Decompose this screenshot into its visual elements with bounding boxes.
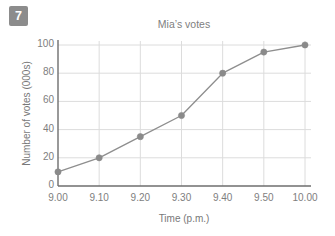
x-tick-label: 9.10 [76,192,122,203]
x-tick-label: 9.50 [241,192,287,203]
x-tick-label: 10.00 [282,192,328,203]
x-tick-label: 9.20 [117,192,163,203]
x-tick-label: 9.00 [35,192,81,203]
x-tick-label: 9.30 [159,192,205,203]
x-tick-label: 9.40 [200,192,246,203]
plot-area: 020406080100 9.009.109.209.309.409.5010.… [0,0,335,236]
x-axis-tick-labels: 9.009.109.209.309.409.5010.00 [0,0,335,236]
chart-page: 7 Mia’s votes Number of votes (000s) Tim… [0,0,335,236]
